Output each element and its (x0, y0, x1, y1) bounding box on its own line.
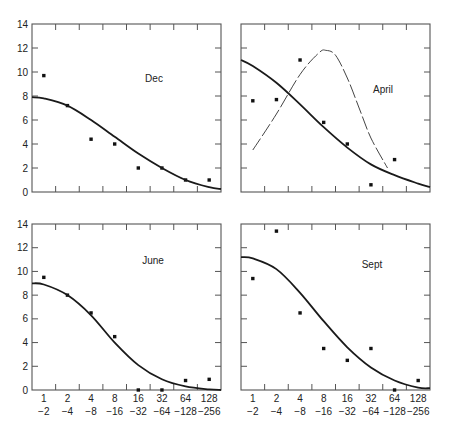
data-point (113, 335, 116, 338)
panel-june: 024681012141−22−44−88−1616−3232−6464−128… (17, 219, 221, 418)
y-tick-label: 14 (17, 19, 29, 30)
data-point (251, 277, 254, 280)
x-tick-label-top: 16 (133, 393, 145, 404)
fitted-curve (32, 283, 221, 390)
y-tick-label: 10 (17, 67, 29, 78)
data-point (137, 166, 140, 169)
data-point (322, 347, 325, 350)
y-tick-label: 8 (22, 91, 28, 102)
plot-frame (32, 24, 221, 192)
y-tick-label: 8 (22, 290, 28, 301)
data-point (369, 347, 372, 350)
data-point (346, 142, 349, 145)
data-point (322, 121, 325, 124)
fitted-curve (32, 97, 221, 189)
data-point (160, 388, 163, 391)
data-point (113, 142, 116, 145)
x-tick-label-top: 8 (112, 393, 118, 404)
x-tick-label-top: 32 (365, 393, 377, 404)
x-tick-label-top: 16 (342, 393, 354, 404)
x-tick-label-bottom: −128 (383, 406, 406, 417)
data-point (393, 388, 396, 391)
data-point (298, 58, 301, 61)
data-point (137, 388, 140, 391)
panel-title: Sept (362, 259, 383, 270)
data-point (416, 379, 419, 382)
y-tick-label: 12 (17, 43, 29, 54)
x-tick-label-bottom: −8 (85, 406, 97, 417)
x-tick-label-top: 1 (250, 393, 256, 404)
y-tick-label: 4 (22, 337, 28, 348)
x-tick-label-top: 64 (180, 393, 192, 404)
panel-title: June (142, 255, 164, 266)
x-tick-label-bottom: −16 (106, 406, 123, 417)
y-tick-label: 6 (22, 115, 28, 126)
x-tick-label-bottom: −4 (62, 406, 74, 417)
data-point (184, 379, 187, 382)
x-tick-label-bottom: −64 (362, 406, 379, 417)
x-tick-label-bottom: −256 (407, 406, 430, 417)
x-tick-label-top: 4 (88, 393, 94, 404)
data-point (298, 311, 301, 314)
x-tick-label-top: 32 (156, 393, 168, 404)
data-point (251, 99, 254, 102)
data-point (393, 158, 396, 161)
plot-frame (241, 224, 430, 390)
y-tick-label: 4 (22, 139, 28, 150)
x-tick-label-bottom: −8 (294, 406, 306, 417)
plot-frame (241, 24, 430, 192)
data-point (275, 98, 278, 101)
x-tick-label-bottom: −32 (339, 406, 356, 417)
y-tick-label: 2 (22, 163, 28, 174)
x-tick-label-top: 2 (65, 393, 71, 404)
y-tick-label: 10 (17, 266, 29, 277)
dashed-curve (253, 50, 388, 168)
y-tick-label: 6 (22, 313, 28, 324)
x-tick-label-top: 128 (201, 393, 218, 404)
panel-april: April (241, 24, 430, 192)
panel-title: Dec (145, 73, 163, 84)
x-tick-label-bottom: −2 (247, 406, 259, 417)
data-point (207, 378, 210, 381)
x-tick-label-bottom: −256 (198, 406, 221, 417)
data-point (275, 229, 278, 232)
x-tick-label-top: 8 (321, 393, 327, 404)
x-tick-label-bottom: −64 (153, 406, 170, 417)
x-tick-label-top: 64 (389, 393, 401, 404)
x-tick-label-top: 2 (274, 393, 280, 404)
figure: 02468101214Dec April 024681012141−22−44−… (0, 0, 449, 431)
x-tick-label-bottom: −2 (38, 406, 50, 417)
panel-sept: 1−22−44−88−1616−3232−6464−128128−256Sept (241, 224, 430, 417)
y-tick-label: 0 (22, 187, 28, 198)
plot-frame (32, 224, 221, 390)
y-tick-label: 2 (22, 361, 28, 372)
data-point (42, 74, 45, 77)
y-tick-label: 12 (17, 242, 29, 253)
y-tick-label: 0 (22, 385, 28, 396)
data-point (89, 138, 92, 141)
data-point (346, 359, 349, 362)
x-tick-label-bottom: −4 (271, 406, 283, 417)
data-point (369, 183, 372, 186)
x-tick-label-bottom: −32 (130, 406, 147, 417)
x-tick-label-bottom: −16 (315, 406, 332, 417)
x-tick-label-top: 1 (41, 393, 47, 404)
data-point (42, 276, 45, 279)
y-tick-label: 14 (17, 219, 29, 230)
fitted-curve (241, 60, 430, 187)
data-point (207, 178, 210, 181)
panel-title: April (373, 84, 393, 95)
x-tick-label-bottom: −128 (174, 406, 197, 417)
panel-dec: 02468101214Dec (17, 19, 221, 198)
fitted-curve (241, 257, 430, 388)
x-tick-label-top: 128 (410, 393, 427, 404)
x-tick-label-top: 4 (297, 393, 303, 404)
